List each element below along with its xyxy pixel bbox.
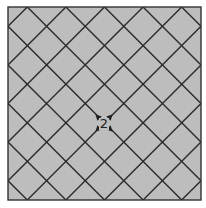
dimension-label: 2: [100, 116, 108, 131]
tiled-square-diagram: 2: [0, 0, 206, 208]
